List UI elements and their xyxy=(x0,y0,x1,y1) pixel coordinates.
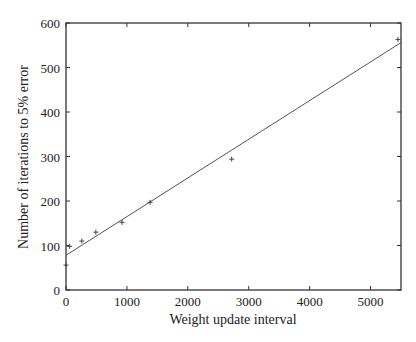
regression-line xyxy=(66,43,401,256)
x-tick-label: 0 xyxy=(63,294,70,309)
x-tick-label: 2000 xyxy=(175,294,201,309)
plot-border xyxy=(66,23,401,290)
y-tick-label: 200 xyxy=(41,194,61,209)
x-tick-label: 5000 xyxy=(358,294,384,309)
plot-frame xyxy=(66,23,401,290)
x-axis-ticks: 010002000300040005000 xyxy=(63,23,384,309)
data-points xyxy=(64,37,401,268)
plus-marker-icon xyxy=(395,37,400,42)
plus-marker-icon xyxy=(67,244,72,249)
x-tick-label: 1000 xyxy=(114,294,140,309)
plus-marker-icon xyxy=(79,239,84,244)
scatter-chart: 010002000300040005000 010020030040050060… xyxy=(0,0,416,342)
plus-marker-icon xyxy=(64,263,69,268)
y-tick-label: 600 xyxy=(41,16,61,31)
y-tick-label: 100 xyxy=(41,239,61,254)
x-axis-title: Weight update interval xyxy=(169,312,296,327)
x-tick-label: 4000 xyxy=(297,294,323,309)
plus-marker-icon xyxy=(229,157,234,162)
x-tick-label: 3000 xyxy=(236,294,262,309)
y-tick-label: 400 xyxy=(41,105,61,120)
y-tick-label: 300 xyxy=(41,150,61,165)
fit-line xyxy=(66,43,401,256)
y-tick-label: 500 xyxy=(41,61,61,76)
y-axis-title: Number of iterations to 5% error xyxy=(16,65,31,249)
y-tick-label: 0 xyxy=(54,283,61,298)
plus-marker-icon xyxy=(93,230,98,235)
